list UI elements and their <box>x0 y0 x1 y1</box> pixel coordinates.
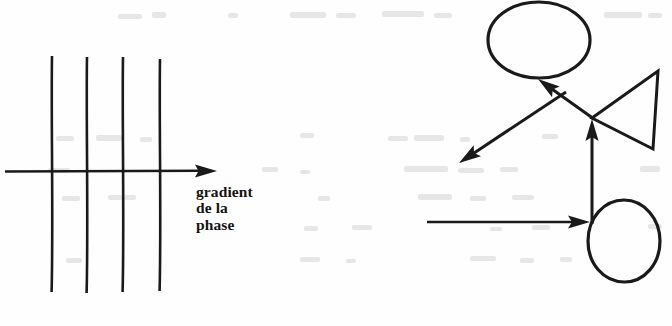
arrow-down-left-head <box>459 145 481 163</box>
scan-ghost-artifacts <box>48 11 662 263</box>
schematic-diagram <box>427 2 660 282</box>
phase-line-2 <box>87 57 88 293</box>
caption-line-3: phase <box>196 217 316 233</box>
lower-circle <box>588 200 660 282</box>
phase-line-1 <box>52 56 53 292</box>
caption-line-2: de la <box>196 200 316 216</box>
upper-ellipse <box>488 2 590 78</box>
figure-canvas: gradient de la phase <box>0 0 672 326</box>
phase-line-4 <box>160 59 161 291</box>
left-pointing-triangle <box>592 71 658 149</box>
caption-line-1: gradient <box>196 184 316 200</box>
gradient-axis-line <box>5 171 202 172</box>
arrow-into-ellipse-head <box>538 79 560 97</box>
phase-gradient-diagram <box>5 56 217 293</box>
phase-line-3 <box>123 57 124 292</box>
arrow-down-left-shaft <box>470 92 566 156</box>
arrow-into-ellipse-shaft <box>549 87 594 119</box>
gradient-caption: gradient de la phase <box>196 184 316 233</box>
figure-svg <box>0 0 672 326</box>
